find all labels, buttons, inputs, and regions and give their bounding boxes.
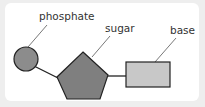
sugar-label: sugar (105, 22, 135, 34)
base-label: base (170, 24, 195, 36)
phosphate-leader-line (28, 25, 47, 47)
nucleotide-diagram: phosphate sugar base (0, 0, 205, 107)
base-leader-line (155, 38, 176, 62)
sugar-pentagon (57, 52, 108, 99)
phosphate-sugar-bond (34, 66, 60, 79)
phosphate-circle (14, 47, 38, 71)
sugar-leader-line (92, 36, 110, 57)
phosphate-label: phosphate (39, 10, 95, 22)
base-rectangle (126, 62, 170, 87)
